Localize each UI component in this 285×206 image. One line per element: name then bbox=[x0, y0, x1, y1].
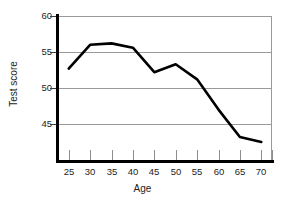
x-tick-mark-55 bbox=[197, 150, 198, 160]
y-axis-line bbox=[56, 14, 59, 163]
x-tick-mark-60 bbox=[219, 150, 220, 160]
gridline-y-45 bbox=[58, 124, 272, 125]
x-tick-mark-edge-1 bbox=[272, 150, 273, 160]
x-axis-line bbox=[56, 160, 274, 163]
x-tick-mark-65 bbox=[240, 150, 241, 160]
gridline-y-50 bbox=[58, 88, 272, 89]
chart-container: 45505560 25303540455055606570 Test score… bbox=[0, 0, 285, 206]
gridline-y-55 bbox=[58, 52, 272, 53]
x-tick-mark-40 bbox=[133, 150, 134, 160]
y-tick-label-50: 50 bbox=[28, 83, 52, 93]
x-tick-mark-35 bbox=[112, 150, 113, 160]
y-tick-label-45: 45 bbox=[28, 119, 52, 129]
x-tick-mark-30 bbox=[90, 150, 91, 160]
x-tick-mark-25 bbox=[69, 150, 70, 160]
gridline-y-60 bbox=[58, 16, 272, 17]
y-tick-label-60: 60 bbox=[28, 11, 52, 21]
y-axis-title: Test score bbox=[8, 36, 20, 132]
x-tick-mark-45 bbox=[154, 150, 155, 160]
x-tick-mark-50 bbox=[176, 150, 177, 160]
x-axis-title: Age bbox=[0, 183, 285, 195]
y-tick-label-55: 55 bbox=[28, 47, 52, 57]
x-tick-mark-70 bbox=[261, 150, 262, 160]
x-tick-label-70: 70 bbox=[248, 166, 274, 177]
